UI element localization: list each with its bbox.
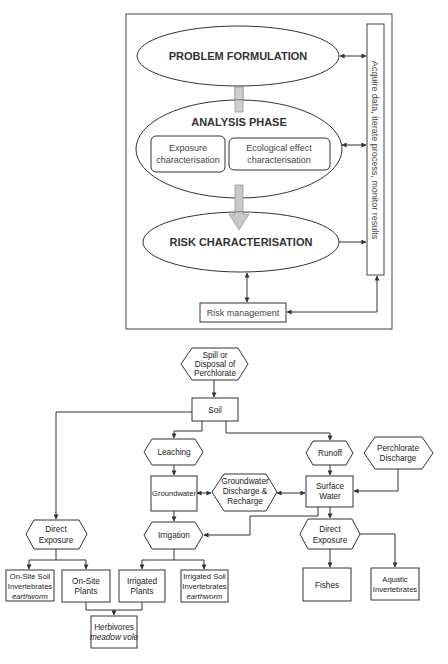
exposure-char-line1: Exposure (169, 143, 207, 153)
aquatic-inv-line1: Aquatic (382, 575, 408, 584)
onsite-plants-line1: On-Site (72, 577, 100, 586)
perchlorate-flowchart: Spill or Disposal of Perchlorate Soil Le… (6, 348, 433, 648)
risk-characterisation-label: RISK CHARACTERISATION (170, 236, 313, 248)
ecological-char-line2: characterisation (247, 155, 311, 165)
irrigated-soil-inv-line1: Irrigated Soil (183, 572, 226, 581)
perchlorate-discharge-node (364, 437, 433, 469)
herbivores-line2: meadow vole (90, 633, 139, 642)
irrigation-label: Irrigation (158, 531, 190, 540)
exposure-char-line2: characterisation (156, 155, 220, 165)
onsite-soil-inv-line1: On-Site Soil (10, 572, 51, 581)
phase-connector-mid (235, 87, 243, 101)
arrow-soil-leaching (174, 421, 202, 438)
herbivores-node (91, 616, 137, 648)
aquatic-invertebrates-node (371, 568, 419, 600)
runoff-label: Runoff (318, 449, 343, 458)
direct-exposure-left-line2: Exposure (39, 536, 74, 545)
irrigated-soil-inv-line3: earthworm (187, 592, 223, 601)
perchlorate-discharge-line1: Perchlorate (377, 444, 419, 453)
arrow-irrigation-soil (174, 560, 204, 569)
exposure-characterisation-box (151, 136, 225, 172)
arrow-direct-aquatic (360, 534, 395, 567)
problem-formulation-label: PROBLEM FORMULATION (169, 50, 308, 62)
diagram-canvas: Acquire data, iterate process, monitor r… (0, 0, 448, 664)
spill-line1: Spill or (202, 351, 227, 360)
perchlorate-discharge-line2: Discharge (380, 454, 417, 463)
surface-water-line2: Water (319, 492, 341, 501)
fishes-label: Fishes (315, 581, 339, 590)
groundwater-label: Groundwater (152, 489, 196, 498)
arrow-direct-onsite-soil (29, 549, 56, 569)
arrow-direct-onsite-plants (56, 560, 86, 569)
risk-management-label: Risk management (207, 308, 280, 318)
arrow-irrigation-plants (142, 549, 174, 569)
arrow-soil-runoff (226, 421, 330, 440)
phase-connector-bottom (235, 100, 243, 112)
arrow-management-sidebar (287, 276, 377, 312)
herbivores-line1: Herbivores (94, 623, 134, 632)
line-plants-join (86, 602, 142, 610)
onsite-plants-line2: Plants (75, 587, 98, 596)
irrigated-plants-line2: Plants (131, 587, 154, 596)
gw-discharge-line1: Groundwater (221, 477, 269, 486)
spill-line2: Disposal of (195, 360, 236, 369)
gw-discharge-line3: Recharge (227, 497, 263, 506)
analysis-phase-label: ANALYSIS PHASE (191, 116, 287, 128)
irrigated-soil-inv-line2: Invertebrates (182, 582, 227, 591)
leaching-label: Leaching (157, 448, 191, 457)
onsite-soil-inv-line3: earthworm (12, 592, 48, 601)
surface-water-line1: Surface (316, 482, 345, 491)
risk-framework: Acquire data, iterate process, monitor r… (126, 14, 392, 329)
direct-exposure-right-line2: Exposure (313, 536, 348, 545)
onsite-soil-inv-line2: Invertebrates (8, 582, 53, 591)
direct-exposure-left-line1: Direct (45, 525, 67, 534)
side-bar-label: Acquire data, iterate process, monitor r… (370, 61, 380, 240)
soil-label: Soil (208, 406, 222, 415)
aquatic-inv-line2: Invertebrates (373, 585, 418, 594)
arrow-perchlorate-surface (354, 469, 398, 491)
direct-exposure-right-line1: Direct (319, 525, 341, 534)
onsite-plants-node (62, 570, 110, 602)
gw-discharge-line2: Discharge & (223, 487, 268, 496)
irrigated-plants-line1: Irrigated (127, 577, 157, 586)
irrigated-plants-node (119, 570, 165, 602)
spill-line3: Perchlorate (194, 369, 236, 378)
ecological-char-line1: Ecological effect (246, 143, 312, 153)
